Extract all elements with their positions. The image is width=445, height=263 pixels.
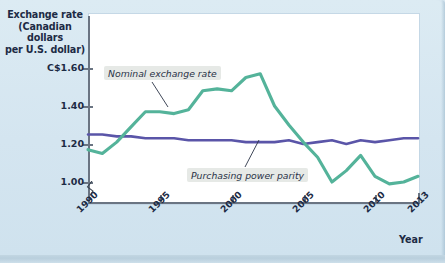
- leader-line-nominal: [152, 82, 168, 107]
- line-purchasing-power-parity: [88, 135, 418, 145]
- annotation-nominal-exchange-rate: Nominal exchange rate: [104, 66, 221, 80]
- annotation-purchasing-power-parity: Purchasing power parity: [187, 168, 308, 182]
- chart-figure: Exchange rate (Canadian dollars per U.S.…: [0, 0, 445, 263]
- series-layer: [0, 0, 445, 263]
- leader-line-ppp: [245, 140, 259, 167]
